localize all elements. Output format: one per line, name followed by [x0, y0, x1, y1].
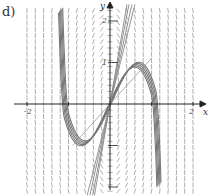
y-axis-label: y — [99, 1, 106, 11]
x-tick-label-neg2: -2 — [24, 107, 32, 116]
y-tick-label-1: 1 — [102, 58, 107, 67]
y-axis-arrow-icon — [107, 2, 113, 8]
y-tick-label-2: 2 — [101, 16, 107, 25]
x-axis-label: x — [203, 107, 208, 117]
direction-field-plot: x y -2 2 2 1 — [0, 0, 211, 196]
axes — [14, 2, 206, 190]
x-tick-label-2: 2 — [188, 107, 194, 116]
